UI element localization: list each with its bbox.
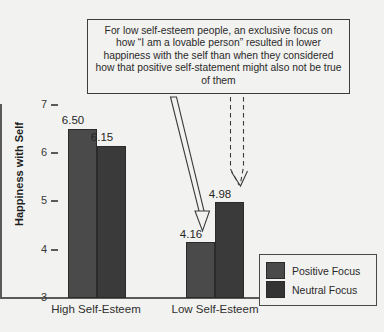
- y-axis-title: Happiness with Self: [13, 109, 25, 239]
- bar-low-neutral: [215, 202, 244, 298]
- x-category-label-low: Low Self-Esteem: [160, 303, 270, 315]
- bar-low-positive: [186, 242, 215, 298]
- callout-annotation: For low self-esteem people, an exclusive…: [87, 19, 350, 94]
- legend-swatch-positive-icon: [266, 262, 285, 279]
- bar-value-low-positive: 4.16: [171, 228, 211, 240]
- bar-value-low-neutral: 4.98: [200, 188, 240, 200]
- callout-text: For low self-esteem people, an exclusive…: [95, 25, 341, 86]
- y-tick-label-3: 3: [33, 291, 47, 303]
- legend-label-neutral: Neutral Focus: [292, 284, 357, 296]
- legend-label-positive: Positive Focus: [292, 265, 360, 277]
- legend-item-neutral-focus: Neutral Focus: [266, 281, 370, 298]
- bar-high-neutral: [97, 146, 126, 298]
- y-tick-label-4: 4: [33, 243, 47, 255]
- y-tick-label-5: 5: [33, 194, 47, 206]
- legend-item-positive-focus: Positive Focus: [266, 262, 370, 279]
- bar-high-positive: [68, 129, 97, 298]
- bar-value-high-positive: 6.50: [53, 114, 93, 126]
- chart-legend: Positive Focus Neutral Focus: [259, 254, 377, 306]
- y-tick-label-6: 6: [33, 146, 47, 158]
- y-axis-line: [0, 104, 2, 299]
- chart-figure: For low self-esteem people, an exclusive…: [0, 0, 384, 332]
- bar-value-high-neutral: 6.15: [82, 131, 122, 143]
- x-category-label-high: High Self-Esteem: [41, 303, 151, 315]
- y-tick-label-7: 7: [33, 98, 47, 110]
- legend-swatch-neutral-icon: [266, 281, 285, 298]
